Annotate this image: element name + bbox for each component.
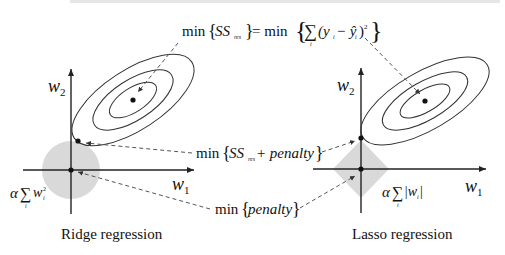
lasso-origin-point	[358, 166, 363, 171]
ridge-ols-point	[130, 97, 135, 102]
svg-text:∑: ∑	[304, 21, 317, 41]
lasso-penalty-formula: α ∑ i |w i |	[382, 184, 423, 208]
svg-text:2: 2	[364, 23, 368, 31]
svg-text:|: |	[420, 184, 423, 199]
ridge-w2-label: w2	[48, 76, 66, 98]
arrow-ss-res-to-lasso	[365, 38, 420, 94]
svg-text:res: res	[234, 34, 242, 40]
svg-text:2: 2	[43, 186, 46, 192]
lasso-constrained-point	[358, 135, 363, 140]
svg-text:∑: ∑	[392, 184, 403, 202]
svg-text:SS: SS	[229, 145, 245, 161]
svg-text:i: i	[417, 194, 419, 200]
lasso-w1-label: w1	[465, 176, 483, 198]
svg-text:w: w	[33, 185, 43, 200]
cutoff-text-strip	[70, 0, 500, 3]
lasso-ols-point	[422, 98, 427, 103]
svg-text:= min: = min	[252, 23, 288, 39]
ridge-panel: w2 w1 α ∑ i w i 2 Ridge regression	[10, 37, 208, 242]
svg-text:i: i	[355, 34, 357, 40]
svg-text:i: i	[397, 202, 399, 208]
svg-text:α: α	[382, 184, 391, 200]
ridge-w1-label: w1	[172, 174, 190, 196]
arrow-ss-res-to-ridge	[138, 43, 178, 92]
ss-res-formula: min { SS res } = min { ∑ i (y i − ŷ i ) …	[182, 16, 382, 47]
arrow-ss-penalty-to-lasso	[322, 141, 355, 152]
ridge-constrained-point	[75, 138, 80, 143]
svg-text:i: i	[310, 41, 312, 47]
svg-text:}: }	[315, 143, 324, 163]
lasso-caption: Lasso regression	[352, 226, 453, 242]
svg-text:i: i	[43, 195, 45, 201]
svg-text:+ penalty: + penalty	[256, 145, 314, 161]
svg-text:min: min	[215, 201, 239, 217]
svg-text:min: min	[196, 145, 220, 161]
svg-text:i: i	[25, 203, 27, 209]
svg-text:∑: ∑	[20, 185, 31, 203]
svg-text:SS: SS	[215, 23, 231, 39]
svg-text:}: }	[370, 16, 382, 45]
ridge-penalty-formula: α ∑ i w i 2	[10, 185, 46, 209]
ridge-origin-point	[68, 167, 73, 172]
svg-text:i: i	[333, 34, 335, 40]
lasso-panel: w2 w1 α ∑ i |w i | Lasso regression	[313, 40, 502, 242]
ss-penalty-formula: min { SS res + penalty }	[196, 143, 324, 163]
penalty-formula: min { penalty }	[215, 199, 301, 219]
ridge-caption: Ridge regression	[61, 226, 163, 242]
svg-text:}: }	[292, 199, 301, 219]
svg-text:α: α	[10, 185, 19, 201]
svg-text:− ŷ: − ŷ	[336, 23, 357, 39]
svg-text:(y: (y	[318, 23, 330, 40]
svg-text:res: res	[248, 156, 256, 162]
svg-text:penalty: penalty	[247, 201, 292, 217]
svg-text:|w: |w	[404, 184, 418, 199]
svg-text:min: min	[182, 23, 206, 39]
lasso-w2-label: w2	[337, 75, 355, 97]
regularization-diagram: w2 w1 α ∑ i w i 2 Ridge regression w2 w1…	[0, 0, 505, 255]
